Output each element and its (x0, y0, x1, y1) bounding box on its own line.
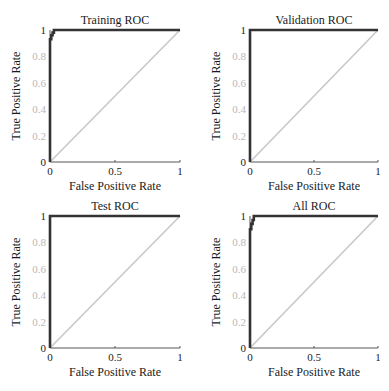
x-tick-label: 0.5 (307, 165, 321, 177)
y-tick-label: 0 (41, 342, 47, 354)
y-tick-label: 1 (241, 210, 247, 222)
x-tick-label: 0 (47, 351, 53, 363)
y-tick-label: 0.6 (32, 263, 46, 275)
y-tick-label: 0.4 (32, 103, 46, 115)
y-tick-label: 1 (41, 210, 47, 222)
roc-figure: Training ROC00.5100.20.40.60.81False Pos… (0, 0, 389, 391)
y-tick-label: 0.4 (232, 289, 246, 301)
y-tick-label: 0 (241, 156, 247, 168)
x-axis-label: False Positive Rate (268, 179, 360, 193)
y-tick-label: 0.6 (32, 77, 46, 89)
y-tick-label: 0.8 (232, 236, 246, 248)
x-tick-label: 0 (247, 165, 253, 177)
x-tick-label: 1 (177, 165, 183, 177)
chart-title: All ROC (292, 199, 335, 213)
x-axis-label: False Positive Rate (268, 365, 360, 379)
y-tick-label: 0.2 (32, 130, 46, 142)
x-tick-label: 1 (177, 351, 183, 363)
roc-panel-training-roc: Training ROC00.5100.20.40.60.81False Pos… (9, 13, 183, 193)
roc-panel-all-roc: All ROC00.5100.20.40.60.81False Positive… (209, 199, 381, 379)
chart-title: Training ROC (81, 13, 150, 27)
x-tick-label: 0 (47, 165, 53, 177)
x-tick-label: 0 (247, 351, 253, 363)
y-tick-label: 0.2 (32, 316, 46, 328)
roc-panel-test-roc: Test ROC00.5100.20.40.60.81False Positiv… (9, 199, 183, 379)
chart-title: Validation ROC (276, 13, 353, 27)
y-tick-label: 0.4 (32, 289, 46, 301)
chance-diagonal-line (50, 30, 180, 162)
x-axis-label: False Positive Rate (69, 179, 161, 193)
y-tick-label: 0.6 (232, 77, 246, 89)
y-axis-label: True Positive Rate (209, 52, 223, 141)
x-axis-label: False Positive Rate (69, 365, 161, 379)
x-tick-label: 1 (375, 165, 381, 177)
y-tick-label: 0.6 (232, 263, 246, 275)
y-axis-label: True Positive Rate (209, 238, 223, 327)
roc-panel-validation-roc: Validation ROC00.5100.20.40.60.81False P… (209, 13, 381, 193)
x-tick-label: 0.5 (108, 165, 122, 177)
y-axis-label: True Positive Rate (9, 52, 23, 141)
y-tick-label: 0.2 (232, 130, 246, 142)
x-tick-label: 1 (375, 351, 381, 363)
chance-diagonal-line (50, 216, 180, 348)
y-tick-label: 0.4 (232, 103, 246, 115)
y-tick-label: 0.2 (232, 316, 246, 328)
x-tick-label: 0.5 (307, 351, 321, 363)
y-tick-label: 1 (241, 24, 247, 36)
chance-diagonal-line (250, 30, 378, 162)
y-axis-label: True Positive Rate (9, 238, 23, 327)
y-tick-label: 0 (241, 342, 247, 354)
y-tick-label: 0 (41, 156, 47, 168)
chart-title: Test ROC (91, 199, 139, 213)
y-tick-label: 0.8 (232, 50, 246, 62)
chance-diagonal-line (250, 216, 378, 348)
x-tick-label: 0.5 (108, 351, 122, 363)
y-tick-label: 1 (41, 24, 47, 36)
y-tick-label: 0.8 (32, 50, 46, 62)
y-tick-label: 0.8 (32, 236, 46, 248)
